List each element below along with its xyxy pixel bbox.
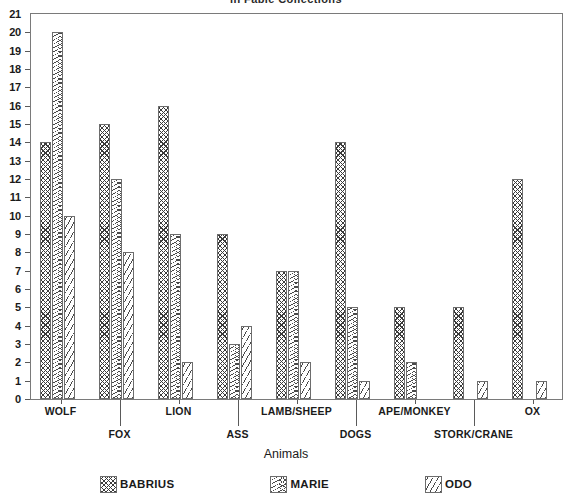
y-tick-label-13: 13 [9,155,21,166]
y-tick-mark-10 [25,216,30,217]
chart-legend: BABRIUSMARIEODO [0,472,572,496]
y-tick-label-15: 15 [9,119,21,130]
legend-item-marie[interactable]: MARIE [270,476,329,493]
y-tick-label-5: 5 [15,302,21,313]
x-tick-label-ass: ASS [226,428,248,440]
x-tick-mark-0 [61,400,62,404]
y-axis: 0123456789101112131415161718192021 [0,13,30,400]
y-tick-label-10: 10 [9,210,21,221]
bars-layer [31,14,562,399]
x-tick-label-dogs: DOGS [340,428,372,440]
y-tick-mark-19 [25,51,30,52]
bar-odo-ass [241,326,253,399]
bar-odo-stork-crane [477,381,489,399]
bar-odo-dogs [359,381,371,399]
bar-marie-dogs [347,307,359,399]
x-tick-label-ox: OX [525,405,541,417]
y-tick-mark-17 [25,87,30,88]
y-tick-label-11: 11 [10,192,21,203]
bar-marie-lamb-sheep [288,271,300,399]
y-tick-mark-5 [25,307,30,308]
bar-babrius-ape-monkey [394,307,406,399]
bar-marie-wolf [52,32,64,399]
bar-babrius-dogs [335,142,347,399]
bar-babrius-ass [217,234,229,399]
bar-babrius-lamb-sheep [276,271,288,399]
y-tick-label-16: 16 [9,100,21,111]
y-tick-mark-14 [25,142,30,143]
y-tick-label-1: 1 [15,375,21,386]
x-tick-label-stork-crane: STORK/CRANE [434,428,513,440]
y-tick-mark-9 [25,234,30,235]
y-tick-label-2: 2 [15,357,21,368]
x-axis-title: Animals [0,447,572,461]
y-tick-mark-1 [25,381,30,382]
y-tick-mark-12 [25,179,30,180]
bar-babrius-wolf [40,142,52,399]
y-tick-mark-3 [25,344,30,345]
chart-title: in Fable Collections [0,0,572,5]
y-tick-label-7: 7 [15,265,21,276]
y-tick-label-9: 9 [15,229,21,240]
bar-babrius-ox [512,179,524,399]
legend-label-odo: ODO [445,478,472,490]
y-tick-label-8: 8 [15,247,21,258]
y-tick-mark-16 [25,106,30,107]
x-tick-mark-2 [179,400,180,404]
bar-odo-lamb-sheep [300,362,312,399]
x-tick-mark-3 [238,400,239,426]
bar-odo-ox [536,381,548,399]
y-tick-mark-18 [25,69,30,70]
y-tick-label-20: 20 [9,27,21,38]
y-tick-label-21: 21 [9,9,21,20]
legend-item-babrius[interactable]: BABRIUS [100,476,175,493]
y-tick-mark-13 [25,161,30,162]
x-tick-mark-5 [356,400,357,426]
bar-odo-wolf [64,216,76,399]
bar-marie-ape-monkey [406,362,418,399]
bar-marie-ass [229,344,241,399]
y-tick-mark-15 [25,124,30,125]
x-tick-mark-1 [120,400,121,426]
legend-label-marie: MARIE [290,478,329,490]
y-tick-label-18: 18 [9,64,21,75]
y-tick-label-17: 17 [9,82,21,93]
bar-babrius-stork-crane [453,307,465,399]
x-tick-label-fox: FOX [108,428,130,440]
y-tick-mark-11 [25,197,30,198]
x-tick-label-ape-monkey: APE/MONKEY [378,405,451,417]
y-tick-label-4: 4 [15,320,21,331]
y-tick-mark-8 [25,252,30,253]
x-tick-mark-8 [533,400,534,404]
x-tick-label-lamb-sheep: LAMB/SHEEP [261,405,332,417]
bar-odo-lion [182,362,194,399]
bar-chart: in Fable Collections 0123456789101112131… [0,0,572,499]
x-axis: WOLFFOXLIONASSLAMB/SHEEPDOGSAPE/MONKEYST… [0,400,572,450]
bar-babrius-fox [99,124,111,399]
legend-swatch-crosshatch-icon [100,476,117,493]
y-tick-mark-20 [25,32,30,33]
legend-label-babrius: BABRIUS [120,478,175,490]
y-tick-label-12: 12 [9,174,21,185]
legend-item-odo[interactable]: ODO [425,476,472,493]
bar-babrius-lion [158,106,170,399]
y-tick-label-6: 6 [15,284,21,295]
x-tick-mark-7 [474,400,475,426]
y-tick-label-3: 3 [15,339,21,350]
legend-swatch-chevron-icon [270,476,287,493]
x-tick-mark-4 [297,400,298,404]
legend-swatch-diagonal-icon [425,476,442,493]
y-tick-label-19: 19 [9,45,21,56]
x-tick-label-wolf: WOLF [45,405,77,417]
y-tick-label-14: 14 [9,137,21,148]
bar-odo-fox [123,252,135,399]
bar-marie-lion [170,234,182,399]
bar-marie-fox [111,179,123,399]
y-tick-mark-2 [25,362,30,363]
y-tick-mark-6 [25,289,30,290]
x-tick-label-lion: LION [166,405,192,417]
x-tick-mark-6 [415,400,416,404]
y-tick-mark-7 [25,271,30,272]
y-tick-mark-4 [25,326,30,327]
